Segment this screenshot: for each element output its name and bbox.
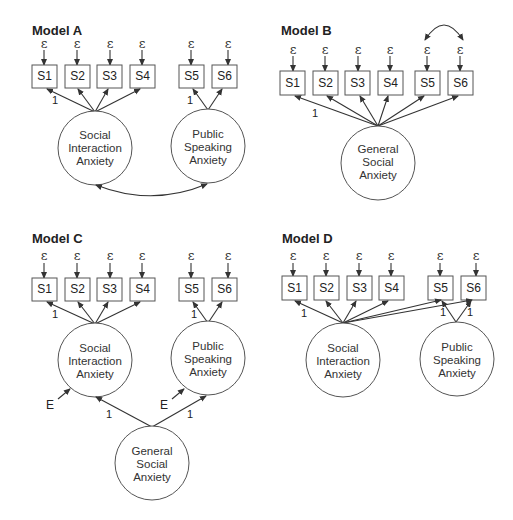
error-term: ε	[74, 248, 81, 263]
svg-text:S5: S5	[184, 282, 199, 296]
svg-text:S6: S6	[217, 69, 232, 83]
error-terms: ε ε ε ε ε ε	[290, 248, 480, 276]
indicator-s1: S1	[32, 65, 57, 88]
error-term: ε	[355, 42, 362, 57]
svg-text:Public: Public	[192, 340, 224, 352]
indicator-s3: S3	[97, 65, 122, 88]
error-term: ε	[107, 248, 114, 263]
indicator-s3: S3	[347, 276, 372, 300]
factor-loadings: 1 1	[47, 302, 222, 324]
error-term: ε	[323, 248, 330, 263]
svg-text:Speaking: Speaking	[184, 141, 232, 153]
svg-text:S3: S3	[102, 282, 117, 296]
svg-text:S3: S3	[102, 69, 117, 83]
svg-text:Public: Public	[192, 128, 224, 140]
svg-text:Anxiety: Anxiety	[359, 169, 397, 181]
svg-text:Anxiety: Anxiety	[189, 154, 227, 166]
indicator-s3: S3	[345, 71, 370, 95]
svg-text:S1: S1	[37, 69, 52, 83]
error-term: ε	[290, 248, 297, 263]
svg-text:Anxiety: Anxiety	[76, 368, 114, 380]
error-terms: ε ε ε ε ε ε	[290, 42, 464, 71]
indicator-s5: S5	[179, 65, 204, 88]
error-term: ε	[424, 42, 431, 57]
indicator-s5: S5	[415, 71, 440, 95]
error-terms: ε ε ε ε ε ε	[41, 248, 232, 278]
latent-public-speaking-anxiety: Public Speaking Anxiety	[171, 109, 245, 183]
indicator-s6: S6	[448, 71, 473, 95]
error-term: ε	[107, 36, 114, 51]
error-terms: ε ε ε ε ε ε	[41, 36, 232, 65]
indicator-s4: S4	[378, 71, 403, 95]
fixed-loading: 1	[52, 94, 58, 106]
svg-text:S4: S4	[384, 281, 399, 295]
svg-text:Anxiety: Anxiety	[133, 471, 171, 483]
svg-text:Speaking: Speaking	[433, 354, 481, 366]
indicator-s2: S2	[314, 276, 339, 300]
model-b-title: Model B	[281, 23, 332, 38]
svg-text:S1: S1	[37, 282, 52, 296]
latent-general-social-anxiety: General Social Anxiety	[341, 126, 415, 200]
indicator-s5: S5	[179, 278, 204, 301]
svg-text:S6: S6	[453, 76, 468, 90]
model-a: Model A ε ε ε ε ε ε S1 S2 S3 S4 S5 S6	[32, 23, 245, 196]
latent-social-interaction-anxiety: Social Interaction Anxiety	[58, 323, 132, 397]
indicator-s2: S2	[65, 65, 90, 88]
fixed-loading: 1	[191, 308, 197, 320]
error-term: ε	[139, 248, 146, 263]
error-term: ε	[388, 248, 395, 263]
error-term: ε	[188, 248, 195, 263]
indicator-s3: S3	[97, 278, 122, 301]
svg-text:Interaction: Interaction	[316, 355, 370, 367]
svg-text:S4: S4	[383, 76, 398, 90]
error-term: ε	[74, 36, 81, 51]
svg-text:S2: S2	[70, 69, 85, 83]
svg-text:Speaking: Speaking	[184, 353, 232, 365]
fixed-loading: 1	[467, 306, 473, 318]
disturbance-term: E	[160, 398, 168, 412]
svg-text:Social: Social	[136, 458, 167, 470]
svg-text:S4: S4	[135, 69, 150, 83]
covariance-arrow	[96, 184, 207, 196]
fixed-loading: 1	[106, 408, 112, 420]
latent-social-interaction-anxiety: Social Interaction Anxiety	[306, 323, 380, 397]
svg-text:S6: S6	[466, 281, 481, 295]
indicator-s6: S6	[212, 278, 237, 301]
svg-text:S5: S5	[433, 281, 448, 295]
fixed-loading: 1	[301, 307, 307, 319]
indicator-s4: S4	[379, 276, 404, 300]
indicator-s5: S5	[428, 276, 453, 300]
model-d-title: Model D	[282, 231, 333, 246]
error-term: ε	[188, 36, 195, 51]
svg-text:Anxiety: Anxiety	[189, 366, 227, 378]
error-term: ε	[322, 42, 329, 57]
model-c: Model C ε ε ε ε ε ε S1 S2 S3 S4 S5 S6	[32, 231, 245, 500]
error-term: ε	[387, 42, 394, 57]
svg-text:S5: S5	[184, 69, 199, 83]
svg-text:S3: S3	[352, 281, 367, 295]
indicator-s4: S4	[130, 278, 155, 301]
error-covariance-arrow	[425, 25, 463, 40]
model-b: Model B ε ε ε ε ε ε S1 S2 S3 S4 S5 S6	[280, 23, 473, 200]
error-term: ε	[356, 248, 363, 263]
svg-text:Social: Social	[79, 129, 110, 141]
fixed-loading: 1	[440, 306, 446, 318]
error-term: ε	[290, 42, 297, 57]
svg-text:General: General	[358, 143, 399, 155]
indicator-s1: S1	[280, 71, 305, 95]
svg-text:Interaction: Interaction	[68, 355, 122, 367]
factor-loadings: 1 1	[47, 89, 222, 112]
disturbance-term: E	[46, 398, 54, 412]
indicator-s4: S4	[130, 65, 155, 88]
svg-text:Social: Social	[362, 156, 393, 168]
disturbance-terms: E E	[46, 389, 184, 412]
indicator-s1: S1	[32, 278, 57, 301]
error-term: ε	[225, 248, 232, 263]
sem-diagram: Model A ε ε ε ε ε ε S1 S2 S3 S4 S5 S6	[0, 0, 513, 520]
svg-text:Social: Social	[79, 342, 110, 354]
second-order-loadings: 1 1	[96, 396, 206, 427]
model-c-title: Model C	[32, 231, 83, 246]
svg-text:S2: S2	[70, 282, 85, 296]
svg-text:S1: S1	[287, 281, 302, 295]
svg-text:S4: S4	[135, 282, 150, 296]
